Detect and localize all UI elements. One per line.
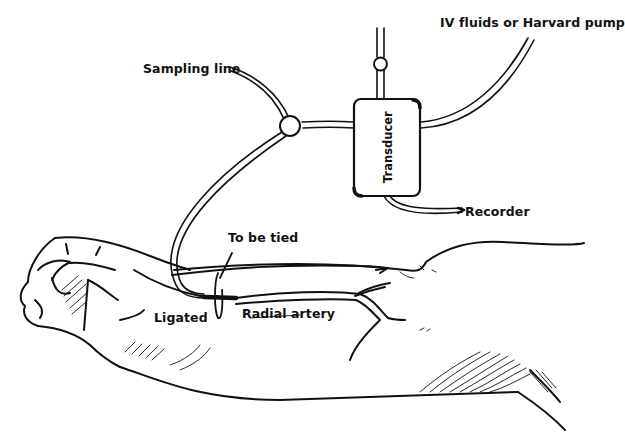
recorder-cable [384,196,464,213]
label-transducer: Transducer [381,111,395,183]
tie-suture [215,253,232,318]
valve-icon [374,58,387,71]
forearm-outline [21,237,584,430]
label-radial-artery: Radial artery [242,306,335,321]
label-sampling-line: Sampling line [143,61,240,76]
iv-fluids-tube [421,38,534,128]
label-iv-fluids: IV fluids or Harvard pump [440,15,625,30]
cropped-caption-fragment [245,436,613,446]
label-recorder: Recorder [465,204,530,219]
stopcock-icon [280,116,300,136]
label-to-be-tied: To be tied [228,230,298,245]
junction-to-transducer-tube [302,121,354,128]
cannula [204,297,236,298]
label-ligated: Ligated [154,310,208,325]
